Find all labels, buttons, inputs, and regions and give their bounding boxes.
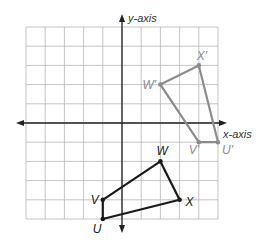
vertex-label: V' xyxy=(189,143,200,157)
shapes: U'V'W'X'UVWX xyxy=(91,49,234,236)
x-axis-right-arrow-icon xyxy=(219,120,227,126)
vertex-label: U xyxy=(93,222,102,236)
vertex-point xyxy=(101,198,106,203)
vertex-point xyxy=(177,198,182,203)
vertex-label: W xyxy=(156,144,169,158)
vertex-label: V xyxy=(91,193,100,207)
x-axis-left-arrow-icon xyxy=(16,120,24,126)
vertex-point xyxy=(101,217,106,222)
x-axis-label: x-axis xyxy=(222,128,252,140)
vertex-point xyxy=(216,140,221,145)
y-axis-up-arrow-icon xyxy=(119,14,125,22)
vertex-label: U' xyxy=(222,143,234,157)
vertex-label: X' xyxy=(196,49,208,63)
vertex-label: W' xyxy=(142,78,156,92)
vertex-point xyxy=(158,82,163,87)
vertex-label: X xyxy=(185,195,195,209)
y-axis-down-arrow-icon xyxy=(119,225,125,233)
vertex-point xyxy=(158,159,163,164)
coordinate-plane: y-axis x-axis U'V'W'X'UVWX xyxy=(0,0,266,244)
vertex-point xyxy=(197,63,202,68)
y-axis-label: y-axis xyxy=(127,12,157,24)
